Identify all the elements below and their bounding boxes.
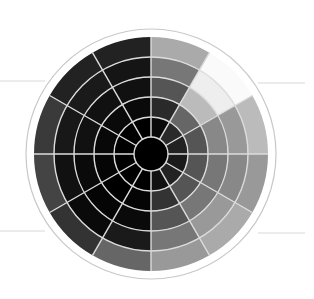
center-core-disk (135, 138, 168, 171)
grayscale-polar-wheel (0, 0, 314, 299)
